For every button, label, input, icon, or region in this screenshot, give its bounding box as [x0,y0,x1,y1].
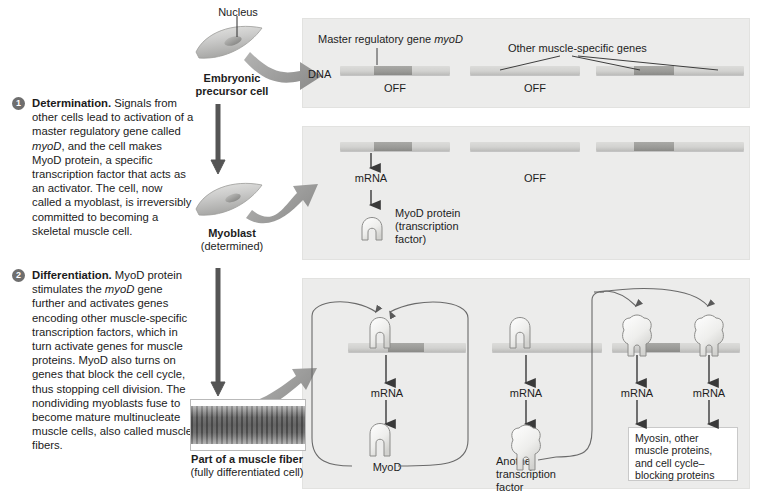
mrna-label-p3-3: mRNA [606,387,668,400]
caption-heading-2: Differentiation. [32,269,112,281]
mrna-label-p3-2: mRNA [495,387,557,400]
muscle-fiber-sublabel: (fully differentiated cell) [176,466,318,479]
caption-number-badge-2: 2 [12,269,25,282]
another-tf-label-line2: transcription [496,468,556,481]
gene-myod-p2 [374,142,412,151]
gene-myod-p3 [388,343,424,352]
mrna-label-p3-4: mRNA [678,387,740,400]
products-line1: Myosin, other [635,432,715,444]
another-tf-label-line3: factor [496,481,524,494]
other-genes-label: Other muscle-specific genes [508,42,647,55]
dna-strand-p3-c [612,343,740,352]
embryonic-cell-label-line1: Embryonic [186,72,278,85]
muscle-fiber-striations [191,406,305,444]
muscle-fiber-micrograph [190,399,306,451]
products-line2: muscle proteins, [635,444,715,456]
caption-italic-2: myoD [105,283,135,295]
products-line4: blocking proteins [635,469,715,481]
myod-label-p3: MyoD [357,461,417,474]
myoblast-label: Myoblast [186,227,278,240]
master-gene-label: Master regulatory gene myoD [318,33,463,46]
nucleus-shape-1 [223,34,243,48]
gene-other-p3 [646,343,680,352]
caption-part-2b: gene further and activates genes encodin… [32,283,192,451]
caption-differentiation: 2 Differentiation. MyoD protein stimulat… [12,268,194,453]
myod-protein-label-line1: MyoD protein [395,207,460,220]
dna-label: DNA [308,68,331,81]
mrna-label-p2: mRNA [340,172,402,185]
off-label-p1-right: OFF [495,82,575,95]
nucleus-label: Nucleus [198,6,278,19]
myoblast-sublabel: (determined) [180,240,284,253]
dna-strand-p1-a [340,66,450,75]
gene-other-p1 [634,66,674,75]
embryonic-cell-label-line2: precursor cell [180,85,284,98]
another-tf-label-line1: Another [496,455,535,468]
dna-strand-p3-b [492,343,602,352]
dna-strand-p1-c [596,66,744,75]
caption-text-2: Differentiation. MyoD protein stimulates… [32,268,194,453]
products-line3: and cell cycle– [635,457,715,469]
caption-italic-1: myoD [32,140,62,152]
caption-number-badge-1: 1 [12,97,25,110]
myoblast-cell-shape [196,183,262,215]
dna-strand-p2-a [340,142,450,151]
off-label-p1-left: OFF [355,82,435,95]
master-gene-label-italic: myoD [434,33,463,45]
embryonic-precursor-cell-shape [196,26,262,58]
myod-protein-label-line3: factor) [395,233,426,246]
mrna-label-p3-1: mRNA [356,387,418,400]
dna-strand-p2-b [470,142,580,151]
figure-root: 1 Determination. Signals from other cell… [0,0,761,499]
products-text: Myosin, other muscle proteins, and cell … [635,432,715,482]
nucleus-shape-2 [224,192,242,204]
caption-part-1b: , and the cell makes MyoD protein, a spe… [32,140,191,237]
caption-determination: 1 Determination. Signals from other cell… [12,96,194,238]
gene-myod-p1 [374,66,412,75]
muscle-proteins-callout-box: Myosin, other muscle proteins, and cell … [628,427,738,481]
muscle-fiber-label: Part of a muscle fiber [182,453,312,466]
caption-heading-1: Determination. [32,97,111,109]
dna-strand-p1-b [470,66,580,75]
master-gene-label-text: Master regulatory gene [318,33,434,45]
dna-strand-p2-c [596,142,744,151]
gene-other-p2 [634,142,674,151]
off-label-p2: OFF [495,172,575,185]
caption-text-1: Determination. Signals from other cells … [32,96,194,238]
dna-strand-p3-a [348,343,466,352]
myod-protein-label-line2: (transcription [395,220,459,233]
